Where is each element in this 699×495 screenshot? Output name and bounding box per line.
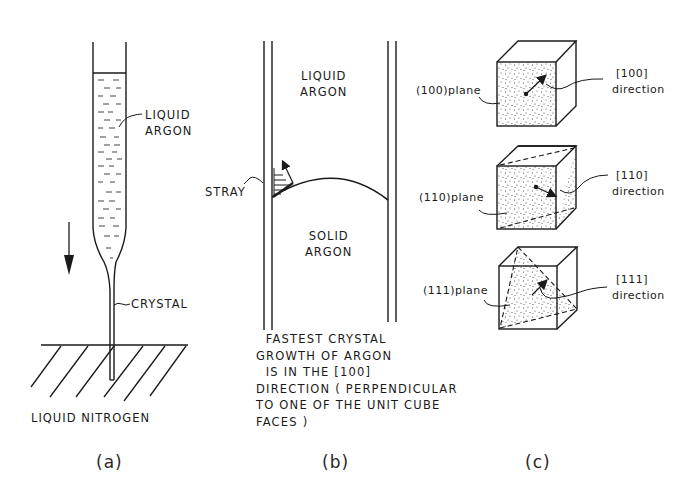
caption-b: (b) bbox=[322, 452, 349, 472]
caption-a: (a) bbox=[96, 452, 123, 472]
description-line: IS IN THE [100] bbox=[256, 364, 458, 381]
label-crystal: CRYSTAL bbox=[131, 296, 188, 312]
description-line: FACES ) bbox=[256, 414, 458, 431]
description-line: FASTEST CRYSTAL bbox=[256, 331, 458, 348]
label-liquid-argon-a: LIQUID ARGON bbox=[145, 107, 192, 139]
label-liquid: LIQUID bbox=[300, 68, 347, 84]
growth-description: FASTEST CRYSTALGROWTH OF ARGON IS IN THE… bbox=[256, 331, 458, 430]
liquid-argon-leader bbox=[119, 114, 142, 127]
label-plane-110: (110)plane bbox=[419, 190, 484, 206]
cube-110 bbox=[497, 146, 576, 229]
description-line: TO ONE OF THE UNIT CUBE bbox=[256, 397, 458, 414]
direction-word: direction bbox=[612, 288, 665, 304]
liquid-argon-dashes bbox=[98, 80, 122, 258]
direction-index: [111] bbox=[612, 272, 665, 288]
label-liquid-nitrogen: LIQUID NITROGEN bbox=[31, 410, 150, 426]
label-solid-argon: SOLID ARGON bbox=[305, 228, 352, 260]
label-argon: ARGON bbox=[305, 244, 352, 260]
panel-a-capillary bbox=[93, 42, 126, 380]
label-direction-100: [100] direction bbox=[612, 66, 665, 98]
caption-c: (c) bbox=[525, 452, 551, 472]
cube-111 bbox=[499, 247, 577, 329]
label-argon: ARGON bbox=[300, 84, 347, 100]
label-direction-111: [111] direction bbox=[612, 272, 665, 304]
label-liquid: LIQUID bbox=[145, 107, 192, 123]
solid-liquid-interface bbox=[272, 178, 388, 200]
label-solid: SOLID bbox=[305, 228, 352, 244]
direction-word: direction bbox=[612, 82, 665, 98]
description-line: GROWTH OF ARGON bbox=[256, 348, 458, 365]
description-line: DIRECTION ( PERPENDICULAR bbox=[256, 381, 458, 398]
label-stray: STRAY bbox=[205, 184, 246, 200]
cube-100 bbox=[497, 41, 576, 126]
label-direction-110: [110] direction bbox=[612, 168, 665, 200]
direction-index: [100] bbox=[612, 66, 665, 82]
direction-word: direction bbox=[612, 184, 665, 200]
direction-index: [110] bbox=[612, 168, 665, 184]
crystal-leader bbox=[114, 303, 130, 305]
stray-crystal bbox=[273, 162, 293, 197]
label-argon: ARGON bbox=[145, 123, 192, 139]
down-arrow-icon bbox=[64, 222, 74, 275]
label-plane-111: (111)plane bbox=[423, 283, 488, 299]
label-plane-100: (100)plane bbox=[416, 83, 481, 99]
label-liquid-argon-b: LIQUID ARGON bbox=[300, 68, 347, 100]
stray-leader bbox=[244, 177, 263, 184]
